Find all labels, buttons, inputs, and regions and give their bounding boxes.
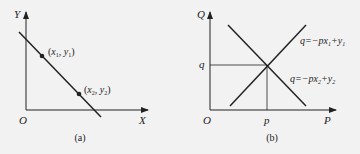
- point-1: [40, 54, 45, 59]
- q-tick-label: q: [199, 58, 205, 70]
- p-axis-label: P: [323, 114, 331, 126]
- line-1-label: q=−px1+y1: [300, 35, 345, 47]
- panel-b: Q q O p P q=−px1+y1 q=−px2+y2 (b): [197, 8, 345, 144]
- point-1-label: (x1, y1): [48, 46, 75, 58]
- p-tick-label: p: [263, 114, 270, 126]
- figure-canvas: Y O X (x1, y1) (x2, y2) (a) Q q O p P q=…: [0, 0, 360, 154]
- point-2-label: (x2, y2): [84, 84, 111, 96]
- origin-label-b: O: [203, 114, 211, 126]
- demand-line: [19, 32, 101, 117]
- panel-a: Y O X (x1, y1) (x2, y2) (a): [14, 8, 148, 144]
- x-axis-label: X: [138, 114, 147, 126]
- line-2-label: q=−px2+y2: [290, 73, 335, 85]
- caption-a: (a): [74, 132, 85, 144]
- q-axis-label: Q: [197, 8, 205, 20]
- y-axis-label: Y: [14, 8, 22, 20]
- point-2: [77, 92, 82, 97]
- caption-b: (b): [266, 132, 278, 144]
- origin-label: O: [19, 114, 27, 126]
